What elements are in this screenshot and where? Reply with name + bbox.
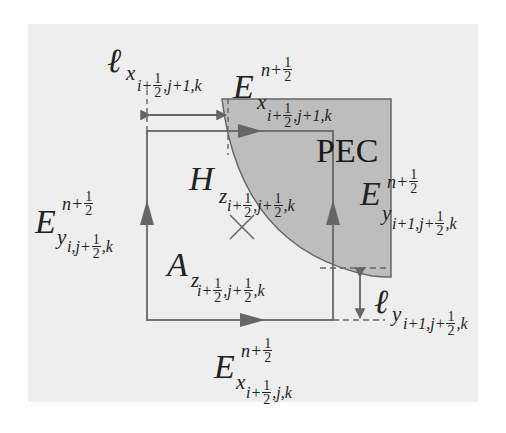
pec-label: PEC: [316, 132, 378, 170]
ex-bottom-arrow-icon: [240, 313, 265, 327]
ey-left-arrow-icon: [140, 200, 154, 225]
